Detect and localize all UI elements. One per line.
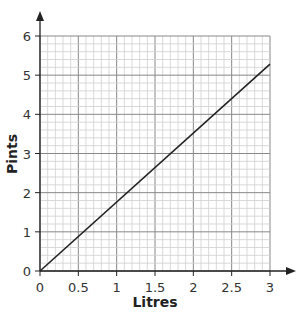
y-tick-label: 4 (23, 107, 31, 122)
x-tick-label: 0.5 (68, 280, 89, 295)
axes (36, 11, 296, 275)
x-axis-arrow-icon (286, 267, 296, 275)
x-tick-label: 3 (266, 280, 274, 295)
conversion-graph: 00.511.522.530123456 Litres Pints (0, 0, 302, 317)
x-axis-label: Litres (132, 294, 177, 310)
y-tick-label: 5 (23, 68, 31, 83)
y-tick-label: 3 (23, 147, 31, 162)
y-axis-arrow-icon (36, 11, 44, 21)
x-tick-label: 0 (36, 280, 44, 295)
y-tick-label: 6 (23, 29, 31, 44)
x-tick-label: 2 (189, 280, 197, 295)
y-tick-label: 2 (23, 186, 31, 201)
x-tick-label: 2.5 (221, 280, 242, 295)
y-axis-label: Pints (4, 134, 20, 174)
x-tick-label: 1 (113, 280, 121, 295)
grid (40, 36, 270, 271)
y-tick-label: 0 (23, 264, 31, 279)
y-tick-label: 1 (23, 225, 31, 240)
x-tick-label: 1.5 (145, 280, 166, 295)
